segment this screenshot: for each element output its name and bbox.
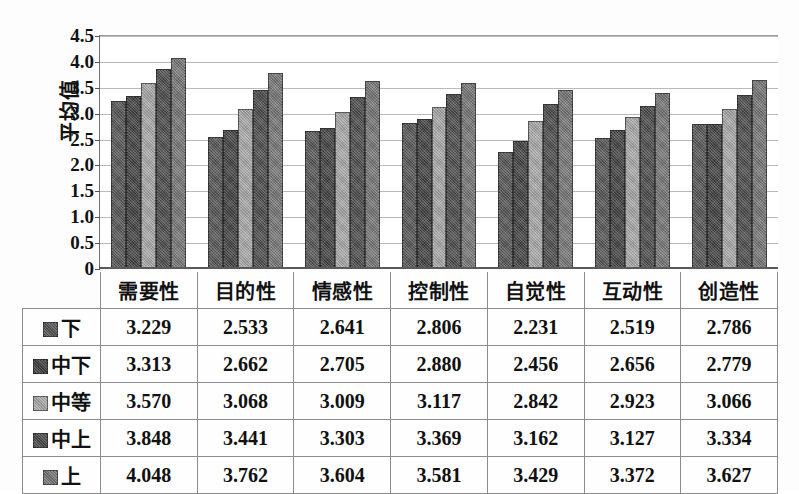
bar xyxy=(223,130,238,268)
table-cell-value: 3.441 xyxy=(197,420,294,457)
legend-label-text: 下 xyxy=(61,318,81,340)
bar xyxy=(268,73,283,268)
bar xyxy=(446,94,461,268)
y-tick-label: 4.0 xyxy=(48,51,94,70)
data-table: 需要性目的性情感性控制性自觉性互动性创造性 下3.2292.5332.6412.… xyxy=(22,272,778,494)
table-cell-value: 2.806 xyxy=(391,309,488,346)
table-body: 下3.2292.5332.6412.8062.2312.5192.786中下3.… xyxy=(23,309,778,494)
table-cell-value: 2.662 xyxy=(197,346,294,383)
table-cell-value: 2.923 xyxy=(584,383,681,420)
series-value-table: 需要性目的性情感性控制性自觉性互动性创造性 下3.2292.5332.6412.… xyxy=(22,272,778,494)
bar xyxy=(625,117,640,268)
y-tick-label: 0.5 xyxy=(48,233,94,252)
bar-group xyxy=(100,36,197,268)
table-column-header: 控制性 xyxy=(391,272,488,309)
legend-label-text: 中上 xyxy=(51,429,90,451)
table-corner-cell xyxy=(23,272,101,309)
table-cell-value: 4.048 xyxy=(101,457,198,494)
bar xyxy=(365,81,380,268)
bar xyxy=(126,96,141,268)
table-row: 中下3.3132.6622.7052.8802.4562.6562.779 xyxy=(23,346,778,383)
bar xyxy=(432,107,447,268)
legend-swatch-icon xyxy=(33,359,48,374)
plot-area xyxy=(99,35,778,268)
bar xyxy=(752,80,767,268)
bar xyxy=(640,106,655,268)
table-cell-value: 3.848 xyxy=(101,420,198,457)
table-cell-value: 2.842 xyxy=(487,383,584,420)
table-cell-value: 2.533 xyxy=(197,309,294,346)
table-cell-value: 3.627 xyxy=(681,457,778,494)
bar-group xyxy=(584,36,681,268)
legend-row-label: 上 xyxy=(23,457,101,494)
bar xyxy=(417,119,432,268)
table-cell-value: 2.786 xyxy=(681,309,778,346)
table-cell-value: 2.641 xyxy=(294,309,391,346)
table-row: 中等3.5703.0683.0093.1172.8422.9233.066 xyxy=(23,383,778,420)
table-column-header: 创造性 xyxy=(681,272,778,309)
bar xyxy=(610,130,625,268)
bar-group xyxy=(197,36,294,268)
table-column-header: 需要性 xyxy=(101,272,198,309)
table-cell-value: 2.779 xyxy=(681,346,778,383)
table-cell-value: 3.762 xyxy=(197,457,294,494)
table-cell-value: 3.313 xyxy=(101,346,198,383)
table-cell-value: 3.303 xyxy=(294,420,391,457)
legend-row-label: 中上 xyxy=(23,420,101,457)
bar xyxy=(513,141,528,268)
table-cell-value: 2.705 xyxy=(294,346,391,383)
bar xyxy=(350,97,365,268)
legend-swatch-icon xyxy=(43,470,58,485)
bar xyxy=(737,95,752,268)
table-cell-value: 3.117 xyxy=(391,383,488,420)
legend-swatch-icon xyxy=(43,322,58,337)
bar xyxy=(253,90,268,268)
legend-row-label: 中等 xyxy=(23,383,101,420)
bar xyxy=(655,93,670,268)
table-column-header: 自觉性 xyxy=(487,272,584,309)
bar-group xyxy=(487,36,584,268)
table-cell-value: 3.581 xyxy=(391,457,488,494)
bar xyxy=(238,109,253,268)
legend-swatch-icon xyxy=(33,396,48,411)
table-cell-value: 2.880 xyxy=(391,346,488,383)
table-row: 上4.0483.7623.6043.5813.4293.3723.627 xyxy=(23,457,778,494)
legend-label-text: 上 xyxy=(61,466,81,488)
bar xyxy=(595,138,610,268)
table-cell-value: 3.372 xyxy=(584,457,681,494)
bar xyxy=(528,121,543,268)
table-cell-value: 3.068 xyxy=(197,383,294,420)
table-cell-value: 3.066 xyxy=(681,383,778,420)
bar xyxy=(141,83,156,268)
legend-row-label: 中下 xyxy=(23,346,101,383)
table-header-row: 需要性目的性情感性控制性自觉性互动性创造性 xyxy=(23,272,778,309)
bar-groups xyxy=(100,36,778,268)
y-tick-label: 1.5 xyxy=(48,181,94,200)
y-tickmark xyxy=(95,269,100,270)
y-tick-label: 2.0 xyxy=(48,155,94,174)
bar xyxy=(402,123,417,268)
bar xyxy=(558,90,573,268)
table-cell-value: 2.656 xyxy=(584,346,681,383)
legend-label-text: 中等 xyxy=(51,392,90,414)
bar xyxy=(156,69,171,268)
bar xyxy=(171,58,186,268)
table-cell-value: 3.334 xyxy=(681,420,778,457)
table-column-header: 目的性 xyxy=(197,272,294,309)
bar xyxy=(692,124,707,268)
table-cell-value: 3.369 xyxy=(391,420,488,457)
legend-row-label: 下 xyxy=(23,309,101,346)
bar xyxy=(320,128,335,268)
table-cell-value: 3.229 xyxy=(101,309,198,346)
bar xyxy=(208,137,223,268)
bar xyxy=(111,101,126,268)
bar xyxy=(335,112,350,268)
bar xyxy=(305,131,320,268)
table-row: 下3.2292.5332.6412.8062.2312.5192.786 xyxy=(23,309,778,346)
y-tick-label: 3.0 xyxy=(48,103,94,122)
table-cell-value: 3.570 xyxy=(101,383,198,420)
table-cell-value: 3.009 xyxy=(294,383,391,420)
bar xyxy=(498,152,513,268)
bar xyxy=(707,124,722,268)
